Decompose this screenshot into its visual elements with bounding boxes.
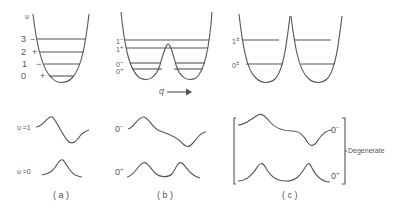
panel-a-level-0-num: 0 bbox=[21, 72, 26, 81]
panel-c-left-bracket bbox=[234, 118, 236, 184]
panel-b-wavefunction-0-minus bbox=[128, 117, 206, 147]
panel-c-level-0-label: 0± bbox=[232, 60, 239, 69]
panel-b-wavefunction-0-plus-label: 0+ bbox=[115, 166, 124, 177]
panel-a-level-0-sign: + bbox=[40, 72, 45, 81]
q-coordinate-label: q bbox=[159, 87, 164, 96]
panel-a-wavefunction-v1 bbox=[36, 117, 89, 143]
panel-a-wavefunction-v0 bbox=[42, 160, 82, 177]
panel-c-wavefunction-0-minus-label: 0− bbox=[331, 124, 340, 135]
panel-a-level-1-num: 1 bbox=[22, 60, 27, 69]
panel-b-level-1-plus-label: 1+ bbox=[116, 44, 123, 53]
panel-c-left-well bbox=[239, 14, 290, 83]
panel-a-wavefunction-v0-label: υ =0 bbox=[17, 168, 31, 175]
panel-a-axis-label: υ bbox=[25, 13, 29, 20]
diagram-canvas bbox=[0, 0, 408, 210]
panel-a-level-2-num: 2 bbox=[21, 48, 26, 57]
panel-a-level-3-num: 3 bbox=[21, 35, 26, 44]
panel-c-wavefunction-0-plus bbox=[238, 164, 330, 182]
panel-c-wavefunction-0-plus-label: 0+ bbox=[331, 170, 340, 181]
panel-b-wavefunction-0-plus bbox=[127, 163, 200, 178]
panel-c-right-well bbox=[291, 16, 342, 83]
panel-a-level-1-sign: − bbox=[36, 60, 41, 69]
degenerate-label: Degenerate bbox=[348, 147, 385, 154]
q-arrow-head bbox=[186, 89, 191, 95]
panel-b-caption: ( b ) bbox=[157, 191, 173, 200]
panel-a-level-2-sign: + bbox=[32, 48, 37, 57]
panel-c-level-1-label: 1± bbox=[232, 36, 239, 45]
panel-b-wavefunction-0-minus-label: 0− bbox=[115, 123, 124, 134]
panel-b-level-0-plus-label: 0+ bbox=[116, 66, 123, 75]
panel-c-caption: ( c ) bbox=[282, 191, 298, 200]
panel-a-wavefunction-v1-label: υ =1 bbox=[17, 124, 31, 131]
panel-c-right-bracket bbox=[342, 118, 345, 184]
panel-a-level-3-sign: − bbox=[30, 35, 35, 44]
panel-a-caption: ( a ) bbox=[53, 191, 69, 200]
panel-c-wavefunction-0-minus bbox=[238, 114, 332, 145]
